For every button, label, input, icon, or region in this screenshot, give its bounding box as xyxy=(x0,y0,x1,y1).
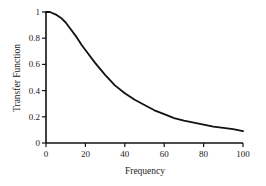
y-tick-label: 1 xyxy=(36,7,41,17)
x-tick-label: 20 xyxy=(81,149,91,159)
chart: 02040608010000.20.40.60.81 Frequency Tra… xyxy=(0,0,266,186)
y-tick-label: 0.8 xyxy=(29,33,41,43)
plot-area xyxy=(46,12,243,131)
x-tick-label: 100 xyxy=(236,149,250,159)
y-axis-label: Transfer Function xyxy=(12,44,22,112)
transfer-function-line xyxy=(46,12,243,131)
x-tick-label: 0 xyxy=(44,149,49,159)
x-tick-label: 60 xyxy=(160,149,170,159)
x-axis-label: Frequency xyxy=(125,166,165,176)
axes: 02040608010000.20.40.60.81 xyxy=(29,7,251,159)
y-tick-label: 0.6 xyxy=(29,59,41,69)
y-tick-label: 0.4 xyxy=(29,86,41,96)
x-tick-label: 80 xyxy=(199,149,209,159)
x-tick-label: 40 xyxy=(120,149,130,159)
y-tick-label: 0 xyxy=(36,138,41,148)
y-tick-label: 0.2 xyxy=(29,112,40,122)
